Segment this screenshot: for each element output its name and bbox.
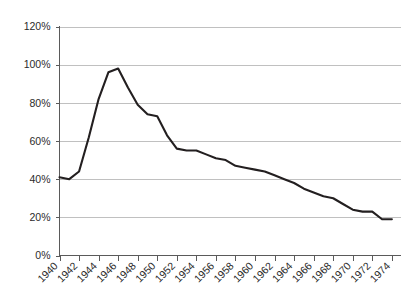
y-tick-label-120: 120%: [24, 20, 51, 32]
line-chart: 120%100%80%60%40%20%0% 19401942194419461…: [0, 0, 414, 305]
y-tick-label-60: 60%: [29, 135, 50, 147]
chart-canvas: 120%100%80%60%40%20%0% 19401942194419461…: [0, 0, 414, 305]
y-tick-label-80: 80%: [29, 97, 50, 109]
y-tick-label-20: 20%: [29, 211, 50, 223]
y-tick-label-0: 0%: [35, 249, 50, 261]
y-tick-label-40: 40%: [29, 173, 50, 185]
y-tick-label-100: 100%: [24, 58, 51, 70]
